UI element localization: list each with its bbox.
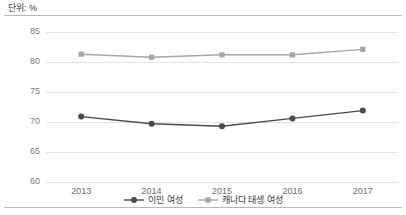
chart-legend: 이민 여성캐나다 태생 여성 bbox=[0, 193, 406, 206]
data-point-marker bbox=[219, 123, 225, 129]
data-point-marker bbox=[149, 121, 155, 127]
chart-figure: 단위: % 858075706560 20132014201520162017 … bbox=[0, 0, 406, 215]
data-point-marker bbox=[219, 52, 224, 57]
data-point-marker bbox=[79, 52, 84, 57]
circle-marker bbox=[123, 195, 145, 205]
legend-item[interactable]: 이민 여성 bbox=[123, 193, 183, 206]
legend-item[interactable]: 캐나다 태생 여성 bbox=[197, 193, 283, 206]
data-point-marker bbox=[360, 47, 365, 52]
data-point-marker bbox=[149, 55, 154, 60]
legend-label: 캐나다 태생 여성 bbox=[222, 193, 283, 206]
data-point-marker bbox=[290, 52, 295, 57]
data-point-marker bbox=[289, 115, 295, 121]
series-canadian-born-women bbox=[79, 47, 366, 60]
series-immigrant-women bbox=[78, 108, 366, 130]
legend-label: 이민 여성 bbox=[148, 193, 183, 206]
data-point-marker bbox=[78, 114, 84, 120]
data-point-marker bbox=[360, 108, 366, 114]
series-layer bbox=[0, 0, 406, 215]
cross-marker bbox=[197, 195, 219, 205]
